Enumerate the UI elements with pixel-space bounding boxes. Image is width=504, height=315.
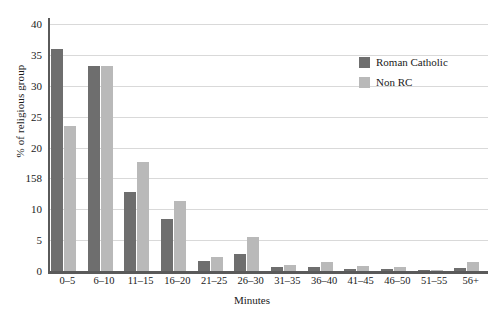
legend-label: Roman Catholic — [376, 56, 448, 68]
bar-nrc — [431, 270, 443, 271]
x-axis-tick-label: 16–20 — [164, 275, 190, 286]
x-axis-tick-label: 51–55 — [421, 275, 447, 286]
bar-rc — [161, 219, 173, 271]
x-axis-tick-label: 11–15 — [128, 275, 154, 286]
bar-nrc — [211, 257, 223, 271]
bar-rc — [124, 192, 136, 271]
x-axis-tick-label: 21–25 — [201, 275, 227, 286]
x-axis-tick-label: 36–40 — [311, 275, 337, 286]
bar-nrc — [101, 66, 113, 271]
y-axis-tick-label: 158 — [26, 172, 43, 184]
bar-nrc — [467, 262, 479, 271]
x-axis-tick-label: 56+ — [462, 275, 478, 286]
bar-nrc — [284, 265, 296, 271]
x-axis-tick-label: 31–35 — [274, 275, 300, 286]
y-axis-tick-label: 5 — [37, 234, 43, 246]
x-axis-tick-label: 26–30 — [238, 275, 264, 286]
bar-nrc — [394, 267, 406, 271]
bar-rc — [418, 270, 430, 271]
bar-rc — [381, 269, 393, 271]
y-axis-tick-label: 10 — [31, 203, 42, 215]
bar-nrc — [64, 126, 76, 271]
x-axis-tick-label: 6–10 — [94, 275, 115, 286]
bar-rc — [51, 49, 63, 271]
bar-group — [231, 18, 268, 271]
x-axis-tick-label: 41–45 — [348, 275, 374, 286]
bar-rc — [344, 269, 356, 271]
bar-rc — [88, 66, 100, 271]
x-axis-line — [48, 271, 488, 274]
legend: Roman CatholicNon RC — [359, 53, 489, 93]
bar-group — [305, 18, 342, 271]
bar-group — [195, 18, 232, 271]
bar-nrc — [357, 266, 369, 271]
y-axis-title: % of religious group — [14, 41, 26, 181]
y-axis-tick-label: 40 — [31, 18, 42, 30]
x-axis-title: Minutes — [0, 294, 504, 306]
legend-item: Non RC — [359, 73, 489, 91]
legend-item: Roman Catholic — [359, 53, 489, 71]
y-axis-tick-label: 20 — [31, 142, 42, 154]
bar-group — [48, 18, 85, 271]
bar-rc — [308, 267, 320, 271]
bar-nrc — [247, 237, 259, 271]
legend-label: Non RC — [376, 76, 412, 88]
bar-nrc — [137, 162, 149, 271]
legend-swatch-icon — [359, 57, 370, 68]
bar-rc — [198, 261, 210, 271]
bar-group — [158, 18, 195, 271]
bar-rc — [454, 268, 466, 271]
bar-nrc — [321, 262, 333, 271]
bar-nrc — [174, 201, 186, 271]
bar-group — [85, 18, 122, 271]
legend-swatch-icon — [359, 77, 370, 88]
bar-rc — [271, 267, 283, 271]
x-axis-tick-label: 46–50 — [384, 275, 410, 286]
y-axis-tick-label: 35 — [31, 49, 42, 61]
x-axis-tick-label: 0–5 — [59, 275, 75, 286]
bar-group — [121, 18, 158, 271]
chart-figure: % of religious group 05101582025303540 0… — [0, 0, 504, 315]
bar-group — [268, 18, 305, 271]
y-axis-tick-label: 30 — [31, 80, 42, 92]
y-axis-tick-label: 0 — [37, 265, 43, 277]
y-axis-tick-label: 25 — [31, 111, 42, 123]
bar-rc — [234, 254, 246, 271]
x-axis-tick-labels: 0–56–1011–1516–2021–2526–3031–3536–4041–… — [48, 275, 488, 291]
